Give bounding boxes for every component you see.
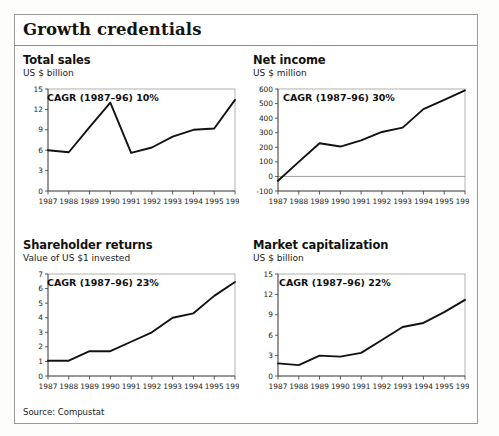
svg-text:1991: 1991 — [352, 382, 371, 391]
chart-svg-market-capitalization: 0369121519871988198919901991199219931994… — [253, 268, 469, 404]
svg-text:200: 200 — [259, 143, 273, 152]
svg-text:1991: 1991 — [122, 382, 141, 391]
svg-text:1993: 1993 — [163, 197, 182, 206]
plot-area-shareholder-returns: CAGR (1987–96) 23% 012345671987198819891… — [23, 268, 239, 404]
chart-panel-shareholder-returns: Shareholder returns Value of US $1 inves… — [23, 239, 239, 404]
plot-area-market-capitalization: CAGR (1987–96) 22% 036912151987198819891… — [253, 268, 469, 404]
svg-text:15: 15 — [34, 85, 44, 94]
svg-text:1992: 1992 — [372, 197, 391, 206]
svg-text:-100: -100 — [256, 187, 273, 196]
svg-text:1994: 1994 — [184, 197, 203, 206]
svg-text:1989: 1989 — [80, 197, 99, 206]
exhibit-page: Growth credentials Total sales US $ bill… — [0, 0, 499, 436]
svg-text:1996: 1996 — [456, 382, 469, 391]
svg-text:9: 9 — [268, 310, 273, 319]
svg-text:1: 1 — [38, 357, 43, 366]
svg-text:600: 600 — [259, 85, 273, 94]
plot-area-net-income: CAGR (1987–96) 30% -10001002003004005006… — [253, 83, 469, 219]
svg-text:1993: 1993 — [393, 197, 412, 206]
svg-text:3: 3 — [268, 351, 273, 360]
chart-svg-shareholder-returns: 0123456719871988198919901991199219931994… — [23, 268, 239, 404]
chart-subtitle-shareholder-returns: Value of US $1 invested — [23, 253, 239, 264]
chart-svg-total-sales: 0369121519871988198919901991199219931994… — [23, 83, 239, 219]
chart-panel-net-income: Net income US $ million CAGR (1987–96) 3… — [253, 54, 469, 219]
svg-text:100: 100 — [259, 157, 273, 166]
chart-title-total-sales: Total sales — [23, 54, 239, 67]
svg-text:1993: 1993 — [163, 382, 182, 391]
svg-text:1990: 1990 — [331, 197, 350, 206]
svg-text:1995: 1995 — [435, 382, 454, 391]
svg-text:15: 15 — [264, 270, 274, 279]
svg-text:6: 6 — [38, 284, 43, 293]
svg-text:6: 6 — [268, 331, 273, 340]
svg-text:1995: 1995 — [435, 197, 454, 206]
svg-text:1994: 1994 — [414, 197, 433, 206]
svg-text:1988: 1988 — [59, 197, 78, 206]
svg-text:12: 12 — [264, 290, 273, 299]
svg-text:1990: 1990 — [331, 382, 350, 391]
svg-text:1991: 1991 — [352, 197, 371, 206]
title-divider — [15, 45, 477, 46]
svg-text:1992: 1992 — [142, 197, 161, 206]
svg-text:1995: 1995 — [205, 197, 224, 206]
svg-text:1991: 1991 — [122, 197, 141, 206]
svg-text:1992: 1992 — [142, 382, 161, 391]
svg-text:1987: 1987 — [39, 197, 58, 206]
svg-text:400: 400 — [259, 114, 273, 123]
svg-text:0: 0 — [268, 172, 273, 181]
svg-text:4: 4 — [38, 313, 43, 322]
svg-text:1989: 1989 — [80, 382, 99, 391]
svg-text:1994: 1994 — [184, 382, 203, 391]
svg-text:1987: 1987 — [269, 197, 288, 206]
svg-text:2: 2 — [38, 342, 43, 351]
chart-subtitle-market-capitalization: US $ billion — [253, 253, 469, 264]
svg-text:1990: 1990 — [101, 382, 120, 391]
svg-text:1994: 1994 — [414, 382, 433, 391]
svg-text:1988: 1988 — [289, 197, 308, 206]
chart-subtitle-total-sales: US $ billion — [23, 68, 239, 79]
svg-text:1987: 1987 — [39, 382, 58, 391]
chart-subtitle-net-income: US $ million — [253, 68, 469, 79]
svg-text:6: 6 — [38, 146, 43, 155]
svg-text:0: 0 — [38, 187, 43, 196]
svg-text:3: 3 — [38, 166, 43, 175]
svg-text:7: 7 — [38, 270, 43, 279]
svg-text:1988: 1988 — [289, 382, 308, 391]
svg-text:3: 3 — [38, 328, 43, 337]
svg-text:12: 12 — [34, 105, 43, 114]
source-note: Source: Compustat — [23, 407, 104, 417]
chart-svg-net-income: -100010020030040050060019871988198919901… — [253, 83, 469, 219]
svg-text:1988: 1988 — [59, 382, 78, 391]
svg-text:1996: 1996 — [456, 197, 469, 206]
svg-text:5: 5 — [38, 299, 43, 308]
svg-text:1987: 1987 — [269, 382, 288, 391]
svg-text:1990: 1990 — [101, 197, 120, 206]
svg-text:9: 9 — [38, 125, 43, 134]
svg-text:1989: 1989 — [310, 197, 329, 206]
svg-text:1992: 1992 — [372, 382, 391, 391]
svg-text:0: 0 — [38, 372, 43, 381]
svg-text:1995: 1995 — [205, 382, 224, 391]
svg-text:0: 0 — [268, 372, 273, 381]
chart-panel-market-capitalization: Market capitalization US $ billion CAGR … — [253, 239, 469, 404]
chart-panel-total-sales: Total sales US $ billion CAGR (1987–96) … — [23, 54, 239, 219]
chart-title-market-capitalization: Market capitalization — [253, 239, 469, 252]
plot-area-total-sales: CAGR (1987–96) 10% 036912151987198819891… — [23, 83, 239, 219]
page-title: Growth credentials — [23, 20, 202, 39]
svg-text:500: 500 — [259, 99, 273, 108]
svg-text:1996: 1996 — [226, 197, 239, 206]
svg-text:1989: 1989 — [310, 382, 329, 391]
chart-title-shareholder-returns: Shareholder returns — [23, 239, 239, 252]
svg-text:300: 300 — [259, 128, 273, 137]
chart-title-net-income: Net income — [253, 54, 469, 67]
svg-text:1996: 1996 — [226, 382, 239, 391]
svg-text:1993: 1993 — [393, 382, 412, 391]
